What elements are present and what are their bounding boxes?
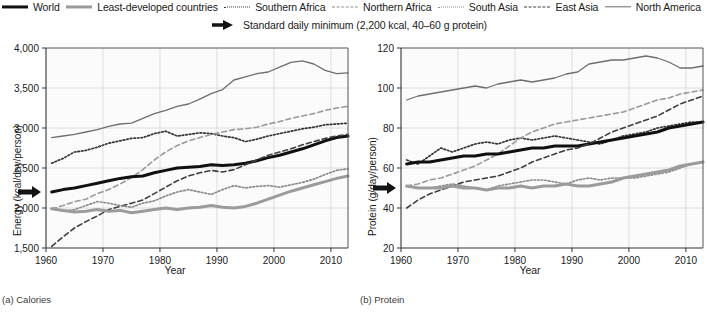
- panel-caption-protein: (b) Protein: [360, 294, 404, 305]
- protein-line-chart: 20406080100120196019701980199020002010: [355, 36, 707, 288]
- y-tick-label: 4,000: [14, 43, 39, 54]
- legend-item-world: World: [2, 1, 60, 13]
- legend-label-east-asia: East Asia: [555, 1, 598, 13]
- y-tick-label: 1,500: [14, 243, 39, 254]
- legend-label-world: World: [33, 1, 60, 13]
- legend-item-south-asia: South Asia: [438, 1, 518, 13]
- legend-label-south-asia: South Asia: [469, 1, 518, 13]
- legend-item-southern-africa: Southern Africa: [224, 1, 325, 13]
- calories-line-chart: 1,5002,0002,5003,0003,5004,0001960197019…: [0, 36, 352, 288]
- plot-area-calories: 1,5002,0002,5003,0003,5004,0001960197019…: [0, 36, 352, 288]
- x-axis-title-calories: Year: [75, 264, 275, 276]
- legend-item-northern-africa: Northern Africa: [332, 1, 432, 13]
- chart-legend: World Least-developed countries Southern…: [0, 0, 707, 36]
- y-axis-title-protein: Protein (g/day/person): [367, 137, 378, 236]
- y-tick-label: 80: [383, 123, 395, 134]
- legend-item-east-asia: East Asia: [524, 1, 598, 13]
- legend-label-standard-daily-minimum: Standard daily minimum (2,200 kcal, 40–6…: [243, 19, 487, 31]
- legend-label-least-developed-countries: Least-developed countries: [97, 1, 218, 13]
- legend-swatch-southern-africa: [224, 1, 250, 13]
- x-axis-title-protein: Year: [430, 264, 630, 276]
- y-tick-label: 120: [377, 43, 394, 54]
- legend-label-north-america: North America: [636, 1, 701, 13]
- legend-swatch-north-america: [605, 1, 631, 13]
- x-tick-label: 2010: [675, 255, 698, 266]
- y-tick-label: 60: [383, 163, 395, 174]
- y-tick-label: 3,500: [14, 83, 39, 94]
- x-tick-label: 1960: [35, 255, 58, 266]
- legend-row-series: World Least-developed countries Southern…: [2, 1, 705, 13]
- x-tick-label: 1960: [390, 255, 413, 266]
- legend-row-annotation: Standard daily minimum (2,200 kcal, 40–6…: [212, 19, 487, 31]
- legend-swatch-least-developed-countries: [66, 1, 92, 13]
- right-arrow-icon: [212, 19, 238, 31]
- chart-panel-protein: 20406080100120196019701980199020002010 P…: [355, 36, 707, 323]
- chart-panel-calories: 1,5002,0002,5003,0003,5004,0001960197019…: [0, 36, 352, 323]
- legend-item-least-developed-countries: Least-developed countries: [66, 1, 218, 13]
- x-tick-label: 2010: [320, 255, 343, 266]
- y-tick-label: 40: [383, 203, 395, 214]
- y-tick-label: 20: [383, 243, 395, 254]
- legend-swatch-east-asia: [524, 1, 550, 13]
- legend-label-northern-africa: Northern Africa: [363, 1, 432, 13]
- legend-swatch-northern-africa: [332, 1, 358, 13]
- panel-caption-calories: (a) Calories: [2, 294, 51, 305]
- legend-item-north-america: North America: [605, 1, 701, 13]
- plot-area-protein: 20406080100120196019701980199020002010: [355, 36, 707, 288]
- y-axis-title-calories: Energy (kcal/day/person): [12, 125, 23, 236]
- legend-swatch-world: [2, 1, 28, 13]
- y-tick-label: 100: [377, 83, 394, 94]
- legend-label-southern-africa: Southern Africa: [255, 1, 325, 13]
- legend-swatch-south-asia: [438, 1, 464, 13]
